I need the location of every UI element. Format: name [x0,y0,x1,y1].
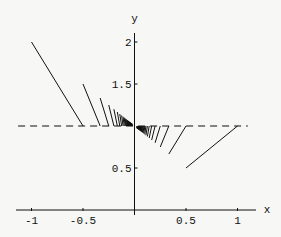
segment-right [169,126,186,154]
x-tick-label: 0.5 [176,215,196,227]
y-tick-label: 2 [125,37,132,49]
segment-left [83,84,100,126]
segment-right [147,126,149,137]
chart: -1-0.50.510.51.52xy [0,0,281,237]
segment-right [186,126,238,168]
x-tick-label: -0.5 [70,215,96,227]
segment-right [160,126,169,147]
segment-left [114,109,117,126]
y-tick-label: 0.5 [112,163,132,175]
segment-right [155,126,160,143]
segment-left [100,98,109,126]
x-tick-label: -1 [25,215,39,227]
y-tick-label: 1.5 [112,79,132,91]
axes: -1-0.50.510.51.52xy [16,13,271,227]
segment-right [152,126,155,140]
y-axis-label: y [131,13,138,25]
segment-left [109,105,114,126]
plot-svg: -1-0.50.510.51.52xy [0,0,281,237]
segment-left [32,42,84,126]
segment-right [149,126,151,138]
x-tick-label: 1 [234,215,241,227]
x-axis-label: x [264,204,271,216]
